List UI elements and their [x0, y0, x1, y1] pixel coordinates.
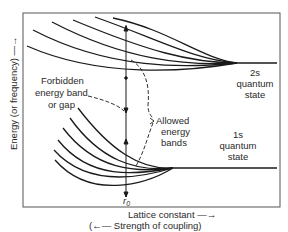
- allowed-label-line3: bands: [161, 137, 187, 148]
- state-2s-label-line1: 2s: [250, 67, 260, 78]
- state-2s-label-line3: state: [245, 89, 266, 100]
- y-axis-label: Energy (or frequency) —→: [8, 36, 19, 150]
- x-axis-sublabel: (←— Strength of coupling): [89, 220, 201, 231]
- energy-band-diagram: Energy (or frequency) —→ Forbidden energ…: [0, 0, 288, 232]
- state-2s-label-line2: quantum: [237, 78, 274, 89]
- band-2s-curves: [27, 17, 277, 70]
- leader-lines: [88, 60, 153, 166]
- allowed-brace: [150, 118, 154, 124]
- allowed-label-line1: Allowed: [156, 115, 189, 126]
- forbidden-label-line2: energy band: [35, 87, 88, 98]
- allowed-label-line2: energy: [161, 126, 190, 137]
- x-axis-label: Lattice constant —→: [128, 209, 216, 220]
- state-1s-label-line2: quantum: [220, 140, 257, 151]
- forbidden-label-line1: Forbidden: [41, 75, 84, 86]
- forbidden-label-line3: or gap: [48, 99, 75, 110]
- state-1s-label-line3: state: [228, 151, 249, 162]
- state-1s-label-line1: 1s: [233, 129, 243, 140]
